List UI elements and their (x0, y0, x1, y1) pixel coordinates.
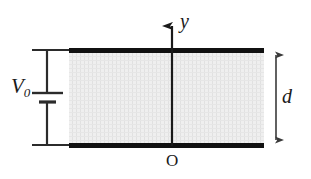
y-axis-label: y (180, 11, 189, 31)
gap-distance-label: d (282, 86, 292, 106)
voltage-source-label: V0 (11, 76, 30, 99)
capacitor-figure: V0 y d O (0, 0, 311, 179)
dielectric-gap-region (69, 50, 264, 145)
bottom-plate (69, 143, 264, 148)
diagram-canvas (0, 0, 311, 179)
voltage-subscript: 0 (24, 85, 31, 100)
top-plate (69, 48, 264, 53)
voltage-symbol: V (11, 74, 24, 98)
origin-label: O (166, 152, 178, 169)
